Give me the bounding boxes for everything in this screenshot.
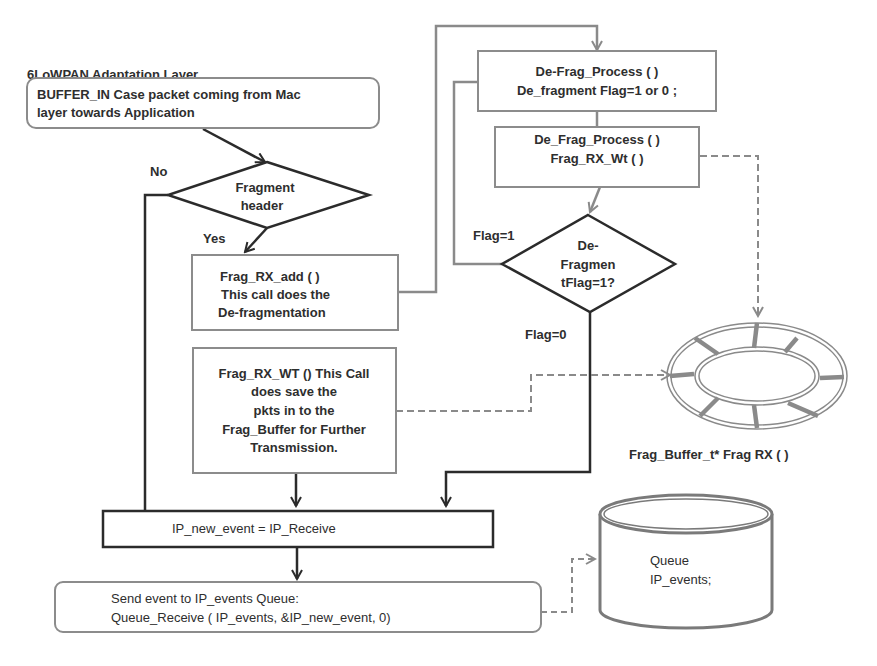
edge-dashed-defrag2-to-buffer — [700, 156, 758, 316]
node-fragment-header: Fragment header — [168, 162, 369, 228]
edge-yes-branch — [245, 228, 267, 252]
de-frag-process-1-line-1: De-Frag_Process ( ) — [536, 64, 659, 79]
fragment-header-line-1: Fragment — [235, 180, 295, 195]
defragment-flag-line-1: De- — [578, 238, 599, 253]
node-frag-rx-add: Frag_RX_add ( ) This call does the De-fr… — [192, 255, 398, 330]
buffer-in-line-1: BUFFER_IN Case packet coming from Mac — [37, 87, 301, 102]
frag-rx-add-line-2: This call does the — [221, 287, 330, 302]
send-event-line-1: Send event to IP_events Queue: — [111, 591, 299, 606]
ip-new-event-text: IP_new_event = IP_Receive — [172, 521, 336, 536]
label-flag-1: Flag=1 — [473, 228, 515, 243]
de-frag-process-2-line-2: Frag_RX_Wt ( ) — [550, 151, 643, 166]
buffer-in-line-2: layer towards Application — [37, 105, 195, 120]
node-ip-new-event: IP_new_event = IP_Receive — [103, 511, 493, 547]
edge-bufferin-to-fragment — [203, 129, 265, 162]
frag-rx-wt-line-5: Transmission. — [250, 440, 337, 455]
frag-buffer-label: Frag_Buffer_t* Frag RX ( ) — [629, 447, 789, 462]
queue-line-2: IP_events; — [650, 572, 711, 587]
label-flag-0: Flag=0 — [525, 327, 567, 342]
edge-flag0-branch — [446, 312, 590, 506]
de-frag-process-2-line-1: De_Frag_Process ( ) — [534, 132, 660, 147]
label-yes: Yes — [203, 231, 225, 246]
edge-dashed-fragrxwt-to-buffer — [396, 375, 670, 411]
frag-rx-wt-line-3: pkts in to the — [254, 403, 335, 418]
node-de-frag-process-2: De_Frag_Process ( ) Frag_RX_Wt ( ) — [495, 127, 699, 187]
node-buffer-in: BUFFER_IN Case packet coming from Mac la… — [27, 78, 379, 128]
edge-dashed-send-to-queue — [541, 559, 595, 612]
node-send-event: Send event to IP_events Queue: Queue_Rec… — [55, 582, 541, 632]
defragment-flag-line-2: Fragmen — [561, 257, 616, 272]
fragment-header-line-2: header — [241, 198, 284, 213]
defragment-flag-line-3: tFlag=1? — [561, 275, 615, 290]
send-event-line-2: Queue_Receive ( IP_events, &IP_new_event… — [111, 610, 391, 625]
de-frag-process-1-line-2: De_fragment Flag=1 or 0 ; — [517, 83, 677, 98]
frag-rx-wt-line-2: does save the — [251, 384, 337, 399]
frag-rx-wt-line-4: Frag_Buffer for Further — [222, 422, 366, 437]
node-frag-rx-wt: Frag_RX_WT () This Call does save the pk… — [193, 348, 396, 473]
queue-line-1: Queue — [650, 553, 689, 568]
frag-rx-add-line-3: De-fragmentation — [218, 305, 326, 320]
frag-rx-add-line-1: Frag_RX_add ( ) — [220, 269, 320, 284]
node-de-frag-process-1: De-Frag_Process ( ) De_fragment Flag=1 o… — [478, 51, 716, 111]
node-defragment-flag: De- Fragmen tFlag=1? — [502, 215, 675, 312]
frag-buffer-ring-icon — [667, 323, 847, 429]
edge-no-branch — [145, 195, 190, 521]
flowchart: 6LoWPAN Adaptation Layer BUFFER_IN Case … — [0, 0, 877, 666]
frag-rx-wt-line-1: Frag_RX_WT () This Call — [219, 366, 370, 381]
edge-defrag2-to-diamond — [590, 187, 600, 212]
label-no: No — [150, 164, 167, 179]
